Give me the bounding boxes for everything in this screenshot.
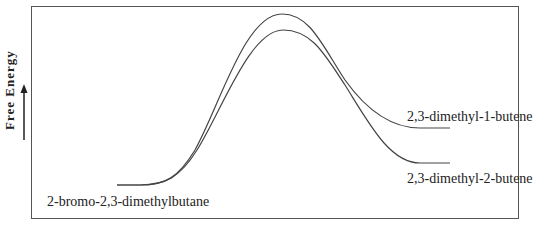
- reactant-label: 2-bromo-2,3-dimethylbutane: [47, 194, 209, 210]
- arrow-up-icon: [21, 84, 28, 140]
- curve-2-butene: [117, 30, 450, 185]
- y-axis-label: Free Energy: [2, 50, 18, 130]
- product-label-2-butene: 2,3-dimethyl-2-butene: [407, 171, 533, 187]
- product-label-1-butene: 2,3-dimethyl-1-butene: [407, 109, 533, 125]
- curve-1-butene: [117, 14, 450, 185]
